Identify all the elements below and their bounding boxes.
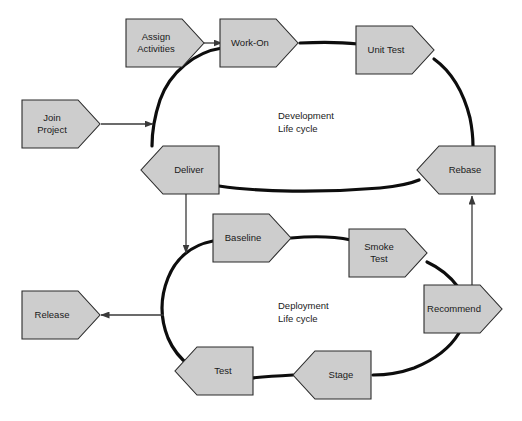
node-label-smoke-test-line1: Smoke: [364, 241, 394, 252]
node-label-assign-activities-line2: Activities: [137, 43, 175, 54]
node-baseline[interactable]: Baseline: [213, 214, 291, 262]
deployment-cycle-label: Deployment Life cycle: [278, 300, 329, 324]
node-smoke-test[interactable]: SmokeTest: [349, 229, 427, 277]
node-label-assign-activities-line1: Assign: [142, 31, 171, 42]
node-work-on[interactable]: Work-On: [220, 19, 298, 67]
node-label-join-project-line1: Join: [43, 112, 60, 123]
development-label-line1: Development: [278, 110, 334, 121]
node-shape-smoke-test[interactable]: [349, 229, 427, 277]
node-label-join-project-line2: Project: [37, 124, 67, 135]
deployment-arc-right-top: [427, 262, 458, 287]
deployment-arc-bottom: [251, 375, 293, 378]
diagram-canvas: Development Life cycle Deployment Life c…: [0, 0, 522, 421]
node-join-project[interactable]: JoinProject: [22, 100, 100, 148]
node-stage[interactable]: Stage: [293, 351, 371, 399]
development-arc-bottom: [219, 180, 419, 191]
deployment-label-line1: Deployment: [278, 300, 329, 311]
node-label-stage: Stage: [329, 369, 354, 380]
node-label-recommend: Recommend: [427, 303, 481, 314]
node-label-test: Test: [214, 365, 232, 376]
node-label-work-on: Work-On: [231, 37, 269, 48]
node-label-rebase: Rebase: [449, 164, 482, 175]
node-label-unit-test: Unit Test: [368, 44, 405, 55]
development-cycle-label: Development Life cycle: [278, 110, 334, 134]
node-label-baseline: Baseline: [225, 232, 261, 243]
development-arc-top: [300, 42, 358, 44]
node-label-deliver: Deliver: [174, 164, 204, 175]
nodes-group: JoinProjectAssignActivitiesWork-OnUnit T…: [22, 19, 502, 399]
node-label-release: Release: [35, 309, 70, 320]
node-recommend[interactable]: Recommend: [424, 285, 502, 333]
node-deliver[interactable]: Deliver: [141, 146, 219, 194]
deployment-arc-right-bottom: [373, 333, 459, 375]
node-label-smoke-test-line2: Test: [370, 253, 388, 264]
deployment-label-line2: Life cycle: [278, 313, 318, 324]
node-test[interactable]: Test: [175, 347, 253, 395]
node-unit-test[interactable]: Unit Test: [356, 26, 434, 74]
node-rebase[interactable]: Rebase: [417, 146, 495, 194]
deployment-arc-top: [291, 237, 351, 240]
development-label-line2: Life cycle: [278, 123, 318, 134]
node-release[interactable]: Release: [22, 291, 100, 339]
diagram-svg: Development Life cycle Deployment Life c…: [0, 0, 522, 421]
development-arc-right: [434, 59, 473, 146]
